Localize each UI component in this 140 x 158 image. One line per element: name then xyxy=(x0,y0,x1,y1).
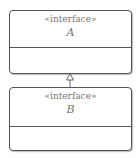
triangle-arrowhead-icon xyxy=(67,74,74,81)
generalization-arrow xyxy=(0,0,140,158)
